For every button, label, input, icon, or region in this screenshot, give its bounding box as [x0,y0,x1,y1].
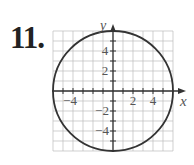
y-axis [110,24,116,152]
svg-text:2: 2 [102,63,109,78]
svg-text:−4: −4 [63,93,77,108]
svg-text:4: 4 [102,43,109,58]
circle-graph: −42442−2−4 x y [0,0,194,165]
svg-text:4: 4 [150,93,157,108]
x-axis-label: x [179,93,187,109]
y-axis-label: y [98,18,107,33]
svg-text:−2: −2 [95,103,109,118]
svg-text:2: 2 [130,93,137,108]
svg-text:−4: −4 [95,123,109,138]
